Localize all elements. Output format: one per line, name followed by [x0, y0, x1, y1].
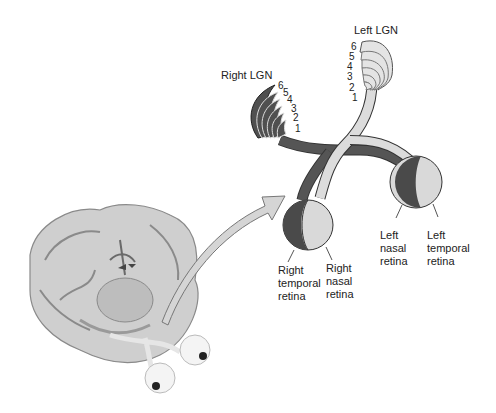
left-lgn-label: Left LGN — [354, 24, 398, 37]
left-lgn-layer-3: 3 — [347, 72, 353, 82]
left-lgn-layer-1: 1 — [352, 93, 358, 103]
left-temporal-retina-label: Left temporal retina — [427, 229, 470, 268]
right-temporal-retina-label: Right temporal retina — [278, 264, 321, 303]
left-eye-retina — [390, 156, 442, 218]
right-lgn — [251, 85, 286, 138]
right-lgn-layer-1: 1 — [295, 124, 301, 134]
brain-illustration — [30, 205, 198, 363]
left-lgn — [360, 41, 393, 90]
visual-pathway-diagram — [0, 0, 496, 413]
right-lgn-label: Right LGN — [221, 69, 272, 82]
right-eye-retina — [283, 200, 333, 262]
left-nasal-retina-label: Left nasal retina — [380, 229, 408, 268]
right-nasal-retina-label: Right nasal retina — [326, 262, 354, 301]
right-lgn-layer-2: 2 — [293, 113, 299, 123]
